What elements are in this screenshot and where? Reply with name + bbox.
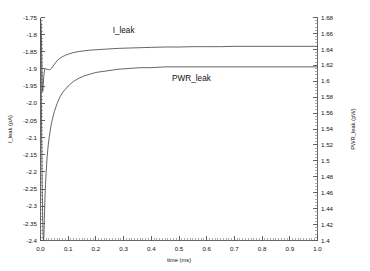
y-axis-left-tick-label: -1.85 <box>23 48 38 55</box>
y-axis-right-tick-label: 1.42 <box>321 221 334 228</box>
y-axis-right-tick-label: 1.52 <box>321 141 334 148</box>
x-axis-tick-label: 0.6 <box>202 245 211 252</box>
data-curves <box>41 18 318 240</box>
y-axis-left-tick-label: -2.15 <box>23 151 38 158</box>
x-axis-title: time (ms) <box>167 257 191 263</box>
y-axis-left-title: I_leak (pA) <box>7 115 13 143</box>
x-axis-tick-label: 0.8 <box>258 245 267 252</box>
x-axis-tick-label: 0.5 <box>175 245 184 252</box>
x-axis-tick-label: 0.4 <box>147 245 156 252</box>
x-axis-tick-label: 0.2 <box>92 245 101 252</box>
y-axis-right-tick-label: 1.46 <box>321 189 334 196</box>
y-axis-left-tick-label: -2.0 <box>26 99 37 106</box>
y-axis-left-tick-label: -2.4 <box>26 237 37 244</box>
y-axis-right-tick-label: 1.4 <box>321 237 330 244</box>
y-axis-right-tick-label: 1.44 <box>321 205 334 212</box>
y-axis-right-tick-label: 1.68 <box>321 14 334 21</box>
y-axis-left-tick-label: -2.1 <box>26 134 37 141</box>
y-axis-right-tick-label: 1.48 <box>321 173 334 180</box>
x-axis-tick-label: 0.3 <box>119 245 128 252</box>
series-annotation-i-leak: I_leak <box>113 26 136 35</box>
y-axis-right-tick-label: 1.66 <box>321 30 334 37</box>
y-axis-left-tick-label: -2.35 <box>23 220 38 227</box>
series-annotation-pwr-leak: PWR_leak <box>172 74 212 83</box>
x-axis-tick-label: 0.9 <box>285 245 294 252</box>
y-axis-right-tick-label: 1.62 <box>321 61 334 68</box>
y-axis-right-tick-label: 1.5 <box>321 157 330 164</box>
y-axis-right: 1.681.661.641.621.61.581.561.541.521.51.… <box>313 14 334 244</box>
y-axis-right-tick-label: 1.58 <box>321 93 334 100</box>
y-axis-right-tick-label: 1.64 <box>321 46 334 53</box>
x-axis-tick-label: 0.1 <box>64 245 73 252</box>
y-axis-left-tick-label: -1.9 <box>26 65 37 72</box>
x-axis-tick-label: 0.0 <box>36 245 45 252</box>
series-annotations: I_leakPWR_leak <box>113 26 212 83</box>
y-axis-left-tick-label: -2.05 <box>23 117 38 124</box>
chart-figure: -1.75-1.8-1.85-1.9-1.95-2.0-2.05-2.1-2.1… <box>0 0 370 271</box>
y-axis-left-tick-label: -1.75 <box>23 14 38 21</box>
y-axis-right-tick-label: 1.54 <box>321 125 334 132</box>
x-axis-tick-label: 0.7 <box>230 245 239 252</box>
y-axis-left-tick-label: -2.25 <box>23 185 38 192</box>
y-axis-right-tick-label: 1.6 <box>321 77 330 84</box>
y-axis-left-tick-label: -1.8 <box>26 31 37 38</box>
y-axis-left-tick-label: -2.3 <box>26 202 37 209</box>
y-axis-right-title: PWR_leak (pW) <box>350 108 356 150</box>
y-axis-right-tick-label: 1.56 <box>321 109 334 116</box>
x-axis: 0.00.10.20.30.40.50.60.70.80.91.0 <box>36 236 322 252</box>
curve-pwr-leak <box>41 19 318 240</box>
y-axis-left-tick-label: -1.95 <box>23 82 38 89</box>
chart-plot-area: -1.75-1.8-1.85-1.9-1.95-2.0-2.05-2.1-2.1… <box>0 0 370 271</box>
y-axis-left-tick-label: -2.2 <box>26 168 37 175</box>
x-axis-tick-label: 1.0 <box>313 245 322 252</box>
